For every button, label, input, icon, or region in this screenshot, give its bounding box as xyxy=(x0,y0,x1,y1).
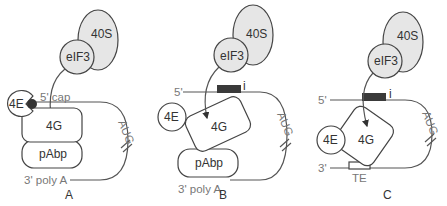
five-prime-label: 5' xyxy=(174,86,183,98)
element-label: i xyxy=(243,79,246,93)
te-label: TE xyxy=(352,172,367,184)
aug-label: AUG xyxy=(275,110,295,138)
label-4e: 4E xyxy=(323,133,338,147)
panel-a: AUG 40S eIF3 pAbp 4G 4E 5' cap 3' poly A… xyxy=(8,10,137,202)
label-eif3: eIF3 xyxy=(220,49,244,63)
polya-label: 3' poly A xyxy=(178,183,221,195)
panel-c: AUG 5' 3' 40S eIF3 TE 4G 4E i C xyxy=(317,12,441,202)
ires-element xyxy=(217,85,241,93)
translation-initiation-diagram: AUG 40S eIF3 pAbp 4G 4E 5' cap 3' poly A… xyxy=(0,0,447,206)
aug-label: AUG xyxy=(116,118,136,146)
ires-element xyxy=(362,93,386,101)
panel-b: AUG 5' 40S eIF3 pAbp 4G 4E i 3' poly A B xyxy=(158,5,296,202)
cap-label: 5' cap xyxy=(40,91,70,103)
label-eif3: eIF3 xyxy=(374,54,398,68)
panel-label-a: A xyxy=(65,188,73,202)
element-label: i xyxy=(389,87,392,101)
label-4e: 4E xyxy=(9,97,24,111)
polya-label: 3' poly A xyxy=(24,174,67,186)
label-4e: 4E xyxy=(164,110,179,124)
panel-label-c: C xyxy=(383,188,392,202)
panel-label-b: B xyxy=(219,188,227,202)
cap-dot xyxy=(27,99,37,109)
label-pabp: pAbp xyxy=(39,147,67,161)
label-eif3: eIF3 xyxy=(66,50,90,64)
aug-label: AUG xyxy=(420,109,440,137)
aug-break-mark xyxy=(280,139,291,151)
label-pabp: pAbp xyxy=(195,156,223,170)
label-40s: 40S xyxy=(397,29,418,43)
label-40s: 40S xyxy=(91,27,112,41)
label-4g: 4G xyxy=(358,133,374,147)
three-prime-label: 3' xyxy=(318,162,327,174)
label-40s: 40S xyxy=(246,27,267,41)
label-4g: 4G xyxy=(211,120,227,134)
label-4g: 4G xyxy=(46,119,62,133)
five-prime-label: 5' xyxy=(318,94,327,106)
